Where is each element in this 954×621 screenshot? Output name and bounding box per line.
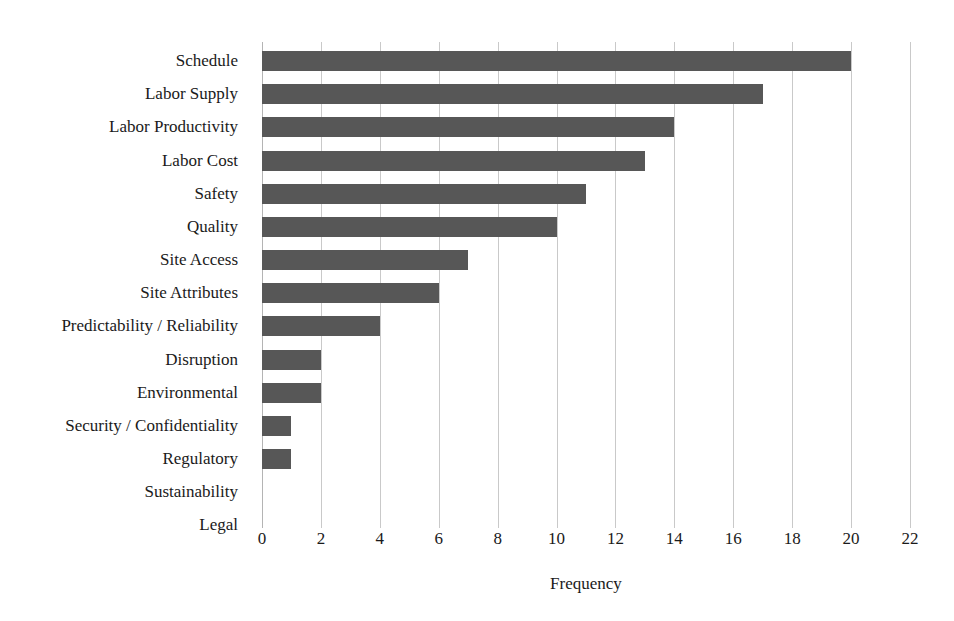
bar [262, 151, 645, 171]
x-tick-label: 2 [301, 528, 341, 550]
x-tick-label: 0 [242, 528, 282, 550]
bar-row [262, 78, 910, 111]
category-label: Schedule [0, 51, 238, 71]
category-label-slot: Sustainability [0, 476, 250, 509]
x-tick-label: 16 [713, 528, 753, 550]
category-label-slot: Labor Cost [0, 145, 250, 178]
category-label-slot: Disruption [0, 344, 250, 377]
bar-row [262, 277, 910, 310]
category-label: Predictability / Reliability [0, 316, 238, 336]
bar-row [262, 211, 910, 244]
x-axis-title: Frequency [262, 574, 910, 594]
bar [262, 250, 468, 270]
bar [262, 383, 321, 403]
plot-area [262, 42, 910, 528]
bar [262, 51, 851, 71]
category-label-slot: Schedule [0, 45, 250, 78]
category-label: Quality [0, 217, 238, 237]
bar-chart: ScheduleLabor SupplyLabor ProductivityLa… [0, 0, 954, 621]
bar-row [262, 476, 910, 509]
category-label: Legal [0, 515, 238, 535]
category-label-slot: Regulatory [0, 443, 250, 476]
x-tick-label: 8 [478, 528, 518, 550]
category-label: Labor Productivity [0, 117, 238, 137]
bar [262, 350, 321, 370]
x-tick-label: 10 [537, 528, 577, 550]
bar [262, 84, 763, 104]
bar [262, 316, 380, 336]
x-tick-label: 18 [772, 528, 812, 550]
category-label-slot: Labor Supply [0, 78, 250, 111]
category-label: Disruption [0, 350, 238, 370]
bar-row [262, 410, 910, 443]
x-tick-label: 6 [419, 528, 459, 550]
bar-row [262, 377, 910, 410]
category-label-slot: Safety [0, 178, 250, 211]
bar [262, 117, 674, 137]
bar [262, 184, 586, 204]
category-label: Labor Cost [0, 151, 238, 171]
category-label: Environmental [0, 383, 238, 403]
bar-row [262, 111, 910, 144]
bar [262, 283, 439, 303]
category-label-slot: Legal [0, 509, 250, 542]
category-label-slot: Predictability / Reliability [0, 310, 250, 343]
bar-row [262, 45, 910, 78]
category-label: Regulatory [0, 449, 238, 469]
category-label-slot: Labor Productivity [0, 111, 250, 144]
category-label-slot: Site Access [0, 244, 250, 277]
bar-row [262, 145, 910, 178]
bar-row [262, 178, 910, 211]
bar [262, 449, 291, 469]
category-label-slot: Environmental [0, 377, 250, 410]
bar-row [262, 310, 910, 343]
bar [262, 217, 557, 237]
bar-row [262, 443, 910, 476]
category-label: Site Access [0, 250, 238, 270]
category-label: Site Attributes [0, 283, 238, 303]
gridline-22 [910, 42, 911, 528]
category-label-slot: Security / Confidentiality [0, 410, 250, 443]
x-axis-tick-labels: 0246810121416182022 [262, 528, 910, 556]
x-tick-label: 14 [654, 528, 694, 550]
bar-row [262, 344, 910, 377]
x-tick-label: 22 [890, 528, 930, 550]
x-tick-label: 12 [595, 528, 635, 550]
bar-row [262, 244, 910, 277]
category-label-slot: Site Attributes [0, 277, 250, 310]
category-label: Labor Supply [0, 84, 238, 104]
x-tick-label: 4 [360, 528, 400, 550]
category-label: Sustainability [0, 482, 238, 502]
category-axis: ScheduleLabor SupplyLabor ProductivityLa… [0, 42, 250, 528]
bar [262, 416, 291, 436]
x-tick-label: 20 [831, 528, 871, 550]
category-label: Security / Confidentiality [0, 416, 238, 436]
category-label: Safety [0, 184, 238, 204]
category-label-slot: Quality [0, 211, 250, 244]
